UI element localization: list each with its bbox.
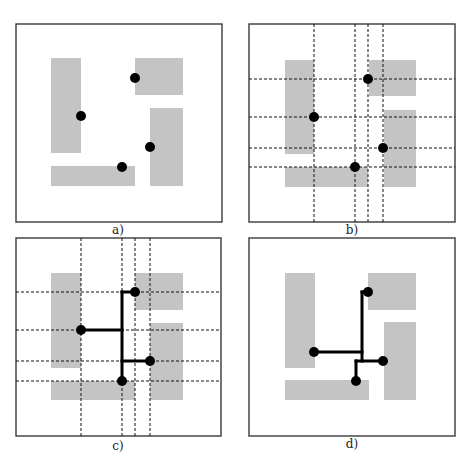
panel-frame bbox=[249, 238, 455, 436]
pin-terminal bbox=[130, 287, 140, 297]
pin-terminal bbox=[350, 162, 360, 172]
panel-frame bbox=[249, 24, 455, 222]
obstacle-block bbox=[369, 60, 416, 96]
pin-terminal bbox=[378, 356, 388, 366]
pin-terminal bbox=[76, 111, 86, 121]
pin-terminal bbox=[117, 162, 127, 172]
pin-terminal bbox=[363, 287, 373, 297]
pin-terminal bbox=[130, 73, 140, 83]
obstacle-block bbox=[51, 58, 81, 153]
panel-b: b) bbox=[249, 24, 455, 237]
obstacle-block bbox=[384, 322, 416, 400]
routing-figure: a) b) c) d) bbox=[0, 0, 474, 464]
pin-terminal bbox=[145, 356, 155, 366]
obstacle-block bbox=[285, 60, 314, 154]
pin-terminal bbox=[145, 142, 155, 152]
pin-terminal bbox=[117, 376, 127, 386]
panel-caption: d) bbox=[346, 437, 358, 451]
obstacle-block bbox=[135, 58, 183, 95]
panel-a: a) bbox=[16, 24, 222, 237]
pin-terminal bbox=[309, 347, 319, 357]
panel-c: c) bbox=[16, 238, 221, 453]
panel-caption: b) bbox=[346, 223, 358, 237]
pin-terminal bbox=[76, 325, 86, 335]
panel-frame bbox=[16, 24, 222, 222]
panel-caption: a) bbox=[112, 223, 124, 237]
panel-d: d) bbox=[249, 238, 455, 451]
panel-caption: c) bbox=[112, 439, 123, 453]
pin-terminal bbox=[363, 74, 373, 84]
obstacle-block bbox=[51, 273, 81, 368]
pin-terminal bbox=[309, 112, 319, 122]
pin-terminal bbox=[378, 143, 388, 153]
panel-frame bbox=[16, 238, 221, 436]
obstacle-block bbox=[368, 273, 416, 310]
pin-terminal bbox=[351, 376, 361, 386]
